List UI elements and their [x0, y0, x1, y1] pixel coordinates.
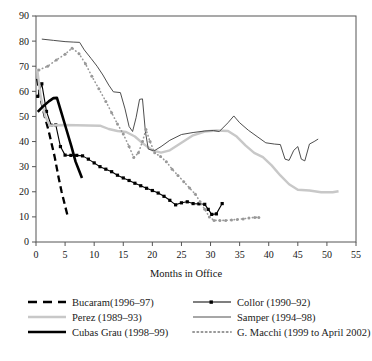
data-point-marker [36, 95, 39, 98]
data-point-marker [64, 53, 67, 56]
data-point-marker [191, 202, 194, 205]
legend-label: G. Macchi (1999 to April 2002) [237, 327, 371, 338]
data-point-marker [104, 168, 107, 171]
x-tick-label: 50 [322, 249, 332, 260]
data-point-marker [162, 195, 165, 198]
series-perez [37, 69, 338, 193]
y-tick-label: 80 [19, 36, 29, 47]
legend-swatch-solid-thin-gray [191, 311, 233, 323]
y-tick-label: 20 [19, 186, 29, 197]
data-point-marker [199, 200, 202, 203]
data-point-marker [127, 179, 130, 182]
data-point-marker [210, 213, 213, 216]
x-tick-label: 25 [176, 249, 186, 260]
data-point-marker [257, 216, 260, 219]
legend-item[interactable]: Bucaram(1996–97) [26, 296, 191, 308]
data-point-marker [69, 154, 72, 157]
data-point-marker [132, 156, 135, 159]
data-point-marker [144, 128, 147, 131]
y-tick-label: 90 [19, 10, 29, 21]
x-tick-label: 15 [118, 249, 128, 260]
data-point-marker [110, 111, 113, 114]
data-point-marker [213, 219, 216, 222]
series-line [39, 48, 259, 220]
x-axis-title: Months in Office [150, 268, 222, 279]
x-axis-ticks: 0510152025303540455055 [34, 242, 362, 260]
data-point-marker [46, 65, 49, 68]
data-point-marker [208, 215, 211, 218]
x-tick-label: 55 [351, 249, 361, 260]
data-point-marker [81, 154, 84, 157]
data-point-marker [141, 140, 144, 143]
y-tick-label: 40 [19, 136, 29, 147]
data-point-marker [87, 158, 90, 161]
data-point-marker [207, 208, 210, 211]
legend-swatch-dashed-black [26, 296, 68, 308]
data-point-marker [182, 180, 185, 183]
legend-swatch-solid-lightgray [26, 311, 68, 323]
legend-item[interactable]: G. Macchi (1999 to April 2002) [191, 326, 366, 338]
data-point-marker [40, 82, 43, 85]
data-point-marker [218, 219, 221, 222]
data-point-marker [224, 219, 227, 222]
data-point-marker [221, 202, 224, 205]
y-tick-label: 10 [19, 211, 29, 222]
line-chart-plot: 0102030405060708090 05101520253035404550… [0, 0, 372, 295]
data-point-marker [153, 151, 156, 154]
data-point-marker [157, 191, 160, 194]
data-point-marker [165, 160, 168, 163]
data-point-marker [253, 216, 256, 219]
x-tick-label: 10 [89, 249, 99, 260]
data-point-marker [180, 201, 183, 204]
data-point-marker [116, 174, 119, 177]
y-tick-label: 60 [19, 86, 29, 97]
data-point-marker [75, 154, 78, 157]
data-point-marker [203, 203, 206, 206]
data-point-marker [145, 187, 148, 190]
y-axis-ticks: 0102030405060708090 [19, 10, 36, 247]
data-point-marker [176, 174, 179, 177]
legend-item[interactable]: Perez (1989–93) [26, 311, 191, 323]
data-point-marker [168, 199, 171, 202]
data-point-marker [242, 217, 245, 220]
legend-label: Bucaram(1996–97) [72, 297, 154, 308]
x-tick-label: 5 [63, 249, 68, 260]
data-point-marker [128, 145, 131, 148]
legend-item[interactable]: Cubas Grau (1998–99) [26, 326, 191, 338]
legend-item[interactable]: Samper (1994–98) [191, 311, 366, 323]
legend-label: Collor (1990–92) [237, 297, 310, 308]
data-point-marker [98, 165, 101, 168]
data-point-marker [236, 218, 239, 221]
series-g [37, 47, 260, 222]
data-point-marker [55, 58, 58, 61]
data-point-marker [78, 52, 81, 55]
data-point-marker [194, 193, 197, 196]
data-point-marker [104, 100, 107, 103]
y-tick-label: 50 [19, 111, 29, 122]
data-point-marker [174, 203, 177, 206]
data-point-marker [122, 176, 125, 179]
data-point-marker [116, 122, 119, 125]
data-point-marker [159, 155, 162, 158]
series-line [37, 69, 338, 193]
data-point-marker [133, 182, 136, 185]
y-tick-label: 30 [19, 161, 29, 172]
y-tick-label: 0 [24, 236, 29, 247]
data-point-marker [122, 133, 125, 136]
data-point-marker [149, 140, 152, 143]
legend-label: Cubas Grau (1998–99) [72, 327, 168, 338]
data-point-marker [151, 189, 154, 192]
data-point-marker [230, 218, 233, 221]
legend-swatch-solid-black-marker [191, 296, 233, 308]
data-point-marker [71, 47, 74, 50]
x-tick-label: 0 [34, 249, 39, 260]
data-point-marker [171, 168, 174, 171]
legend-label: Samper (1994–98) [237, 312, 315, 323]
data-point-marker [247, 216, 250, 219]
data-point-marker [37, 68, 40, 71]
legend-item[interactable]: Collor (1990–92) [191, 296, 366, 308]
legend-swatch-solid-thick-black [26, 326, 68, 338]
x-tick-label: 35 [235, 249, 245, 260]
data-point-marker [188, 187, 191, 190]
data-point-marker [97, 87, 100, 90]
